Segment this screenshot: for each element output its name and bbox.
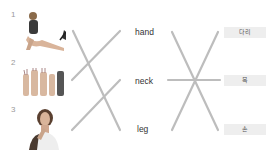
match-line-1 xyxy=(73,31,120,130)
image-person-stretching-leg xyxy=(20,10,66,52)
korean-word-box-3: 손 xyxy=(224,124,266,135)
item-number-1: 1 xyxy=(11,10,15,19)
english-word-hand: hand xyxy=(135,27,154,37)
image-raised-hands xyxy=(20,68,66,96)
item-number-3: 3 xyxy=(11,105,15,114)
english-word-leg: leg xyxy=(137,124,148,134)
korean-word-box-2: 목 xyxy=(224,75,266,86)
korean-word-box-1: 다리 xyxy=(224,27,266,38)
english-word-neck: neck xyxy=(135,76,153,86)
match-line-3 xyxy=(72,80,120,130)
match-line-2 xyxy=(72,31,120,80)
item-number-2: 2 xyxy=(11,58,15,67)
image-person-touching-neck xyxy=(25,108,65,150)
